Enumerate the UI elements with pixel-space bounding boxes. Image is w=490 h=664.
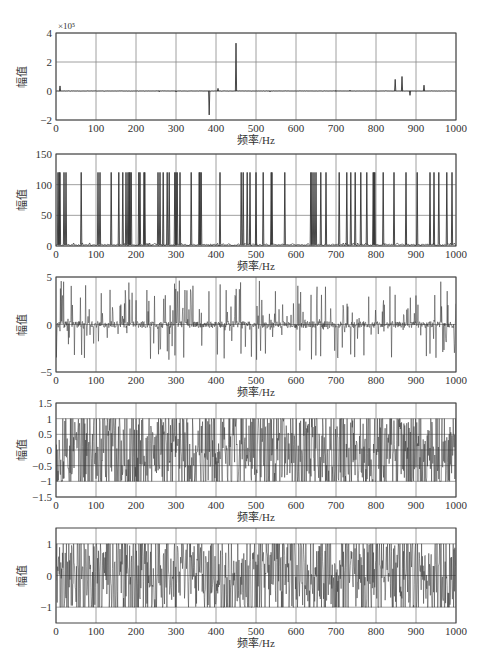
x-tick-labels: 01002003004005006007008009001000 [53, 625, 467, 637]
svg-text:−2: −2 [40, 114, 52, 126]
svg-text:900: 900 [408, 625, 425, 637]
svg-text:400: 400 [208, 248, 225, 260]
svg-text:0: 0 [47, 570, 53, 582]
svg-text:0: 0 [53, 248, 59, 260]
svg-text:0: 0 [53, 499, 59, 511]
svg-text:900: 900 [408, 374, 425, 386]
y-axis-label: 幅值 [16, 565, 28, 587]
svg-text:0: 0 [47, 444, 53, 456]
svg-text:−1: −1 [40, 601, 52, 613]
y-axis-label: 幅值 [16, 314, 28, 336]
svg-text:0: 0 [53, 122, 59, 134]
y-axis-label: 幅值 [16, 66, 28, 88]
svg-text:300: 300 [168, 122, 185, 134]
x-tick-labels: 01002003004005006007008009001000 [53, 374, 467, 386]
grid-lines [56, 33, 456, 120]
svg-text:200: 200 [128, 499, 145, 511]
svg-text:700: 700 [328, 248, 345, 260]
svg-text:100: 100 [36, 179, 53, 191]
svg-text:500: 500 [248, 248, 265, 260]
svg-text:1000: 1000 [445, 374, 468, 386]
svg-text:500: 500 [248, 374, 265, 386]
y-exponent-label: ×10⁵ [58, 21, 75, 31]
svg-text:700: 700 [328, 625, 345, 637]
y-tick-labels: −2024 [40, 27, 52, 126]
svg-text:200: 200 [128, 248, 145, 260]
svg-text:400: 400 [208, 122, 225, 134]
x-tick-labels: 01002003004005006007008009001000 [53, 248, 467, 260]
x-axis-label: 频率/Hz [237, 636, 275, 649]
figure: 01002003004005006007008009001000−2024×10… [0, 0, 490, 664]
svg-text:100: 100 [88, 625, 105, 637]
svg-text:1.5: 1.5 [38, 397, 52, 409]
svg-text:50: 50 [41, 209, 53, 221]
svg-text:800: 800 [368, 248, 385, 260]
svg-text:−1: −1 [40, 475, 52, 487]
subplot-3-sparse-signal: 01002003004005006007008009001000−505频率/H… [16, 271, 468, 398]
svg-text:0: 0 [47, 85, 53, 97]
y-tick-labels: −101 [40, 538, 52, 613]
svg-text:600: 600 [288, 625, 305, 637]
x-axis-label: 频率/Hz [237, 259, 275, 272]
svg-text:0: 0 [53, 625, 59, 637]
subplot-4-clipped-noise: 01002003004005006007008009001000−1.5−1−0… [16, 397, 468, 523]
svg-text:900: 900 [408, 122, 425, 134]
svg-text:1000: 1000 [445, 499, 468, 511]
svg-text:100: 100 [88, 499, 105, 511]
svg-text:−1.5: −1.5 [32, 491, 52, 503]
svg-text:100: 100 [88, 122, 105, 134]
svg-text:800: 800 [368, 122, 385, 134]
svg-text:−0.5: −0.5 [32, 460, 52, 472]
svg-text:4: 4 [47, 27, 53, 39]
y-axis-label: 幅值 [16, 439, 28, 461]
svg-text:0: 0 [47, 319, 53, 331]
svg-text:900: 900 [408, 248, 425, 260]
svg-text:500: 500 [248, 122, 265, 134]
x-axis-label: 频率/Hz [237, 133, 275, 146]
x-axis-label: 频率/Hz [237, 510, 275, 523]
svg-text:1000: 1000 [445, 122, 468, 134]
svg-text:−5: −5 [40, 366, 52, 378]
svg-text:2: 2 [47, 56, 53, 68]
svg-text:800: 800 [368, 499, 385, 511]
y-axis-label: 幅值 [16, 189, 28, 211]
svg-text:700: 700 [328, 374, 345, 386]
svg-text:500: 500 [248, 499, 265, 511]
svg-text:1: 1 [47, 413, 53, 425]
svg-text:0.5: 0.5 [38, 428, 52, 440]
svg-text:800: 800 [368, 625, 385, 637]
y-tick-labels: −1.5−1−0.500.511.5 [32, 397, 52, 503]
svg-text:300: 300 [168, 248, 185, 260]
svg-text:100: 100 [88, 374, 105, 386]
svg-text:600: 600 [288, 248, 305, 260]
y-tick-labels: 050100150 [36, 148, 53, 252]
svg-text:200: 200 [128, 374, 145, 386]
svg-text:1000: 1000 [445, 625, 468, 637]
svg-text:0: 0 [47, 240, 53, 252]
svg-text:400: 400 [208, 374, 225, 386]
svg-text:100: 100 [88, 248, 105, 260]
svg-text:200: 200 [128, 122, 145, 134]
svg-text:600: 600 [288, 122, 305, 134]
svg-text:800: 800 [368, 374, 385, 386]
subplot-1-magnitude-spectrum: 01002003004005006007008009001000−2024×10… [16, 21, 468, 146]
svg-text:200: 200 [128, 625, 145, 637]
svg-text:700: 700 [328, 122, 345, 134]
x-tick-labels: 01002003004005006007008009001000 [53, 122, 467, 134]
svg-text:0: 0 [53, 374, 59, 386]
svg-text:700: 700 [328, 499, 345, 511]
svg-text:400: 400 [208, 625, 225, 637]
svg-text:300: 300 [168, 374, 185, 386]
x-axis-label: 频率/Hz [237, 385, 275, 398]
svg-text:300: 300 [168, 499, 185, 511]
svg-text:500: 500 [248, 625, 265, 637]
subplot-5-clipped-noise: 01002003004005006007008009001000−101频率/H… [16, 528, 468, 649]
svg-text:1: 1 [47, 538, 53, 550]
svg-text:600: 600 [288, 499, 305, 511]
svg-text:900: 900 [408, 499, 425, 511]
svg-text:5: 5 [47, 271, 53, 283]
x-tick-labels: 01002003004005006007008009001000 [53, 499, 467, 511]
svg-text:600: 600 [288, 374, 305, 386]
svg-text:150: 150 [36, 148, 53, 160]
y-tick-labels: −505 [40, 271, 52, 378]
